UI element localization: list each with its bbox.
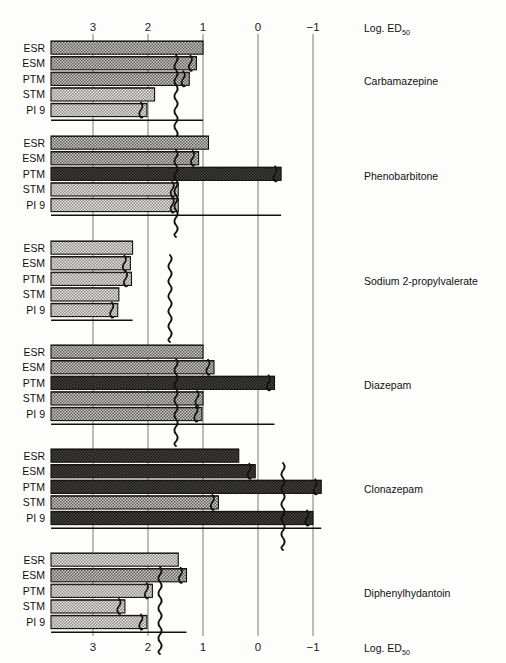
row-label-esr: ESR xyxy=(23,242,45,254)
bottom-tick-1: 2 xyxy=(145,641,151,653)
drug-label-diazepam: Diazepam xyxy=(364,379,412,391)
bar xyxy=(51,511,313,524)
row-label-esm: ESM xyxy=(22,57,45,69)
row-label-pi9: PI 9 xyxy=(26,512,45,524)
row-label-ptm: PTM xyxy=(23,481,45,493)
bar xyxy=(51,72,189,85)
bar xyxy=(51,272,132,285)
row-label-stm: STM xyxy=(23,600,45,612)
bottom-tick-0: 3 xyxy=(90,641,96,653)
bar xyxy=(51,103,147,116)
top-tick-3: 0 xyxy=(255,21,261,33)
bar xyxy=(51,136,209,149)
row-label-stm: STM xyxy=(23,496,45,508)
row-label-ptm: PTM xyxy=(23,168,45,180)
bar xyxy=(51,480,321,493)
bar xyxy=(51,288,119,301)
bar xyxy=(51,584,152,597)
row-label-pi9: PI 9 xyxy=(26,408,45,420)
drug-label-sodium-2-propylvalerate: Sodium 2-propylvalerate xyxy=(364,275,478,287)
bottom-tick-2: 1 xyxy=(200,641,206,653)
row-label-esm: ESM xyxy=(22,152,45,164)
bar xyxy=(51,198,178,211)
bar xyxy=(51,257,130,270)
top-tick-2: 1 xyxy=(200,21,206,33)
bar xyxy=(51,303,118,316)
row-label-pi9: PI 9 xyxy=(26,104,45,116)
row-label-ptm: PTM xyxy=(23,585,45,597)
row-label-pi9: PI 9 xyxy=(26,304,45,316)
row-label-pi9: PI 9 xyxy=(26,616,45,628)
bar xyxy=(51,167,281,180)
bar xyxy=(51,183,178,196)
chart-figure: 3210−1 3210−1 ESRESMPTMSTMPI 9ESRESMPTMS… xyxy=(0,0,506,663)
bar xyxy=(51,600,125,613)
top-tick-0: 3 xyxy=(90,21,96,33)
bar xyxy=(51,376,275,389)
row-label-stm: STM xyxy=(23,288,45,300)
row-label-esr: ESR xyxy=(23,450,45,462)
row-label-stm: STM xyxy=(23,88,45,100)
bar xyxy=(51,449,239,462)
row-label-esm: ESM xyxy=(22,569,45,581)
bar-chart-svg: 3210−1 3210−1 ESRESMPTMSTMPI 9ESRESMPTMS… xyxy=(0,0,506,663)
row-label-ptm: PTM xyxy=(23,273,45,285)
top-tick-1: 2 xyxy=(145,21,151,33)
bar xyxy=(51,392,203,405)
row-label-esr: ESR xyxy=(23,137,45,149)
bar xyxy=(51,496,218,509)
drug-label-carbamazepine: Carbamazepine xyxy=(364,75,438,87)
row-label-esm: ESM xyxy=(22,465,45,477)
bar xyxy=(51,241,133,254)
row-label-stm: STM xyxy=(23,183,45,195)
drug-label-phenobarbitone: Phenobarbitone xyxy=(364,170,438,182)
bar xyxy=(51,41,203,54)
bottom-tick-4: −1 xyxy=(306,641,319,653)
row-label-ptm: PTM xyxy=(23,377,45,389)
bar xyxy=(51,361,214,374)
bottom-tick-3: 0 xyxy=(255,641,261,653)
bar xyxy=(51,569,187,582)
row-label-esr: ESR xyxy=(23,42,45,54)
bar xyxy=(51,615,147,628)
bar xyxy=(51,407,202,420)
bar xyxy=(51,465,255,478)
row-label-esm: ESM xyxy=(22,361,45,373)
drug-label-clonazepam: Clonazepam xyxy=(364,483,423,495)
row-label-stm: STM xyxy=(23,392,45,404)
bar xyxy=(51,345,203,358)
row-label-esm: ESM xyxy=(22,257,45,269)
row-label-ptm: PTM xyxy=(23,73,45,85)
row-label-esr: ESR xyxy=(23,554,45,566)
row-label-esr: ESR xyxy=(23,346,45,358)
row-label-pi9: PI 9 xyxy=(26,199,45,211)
bar xyxy=(51,553,178,566)
top-tick-4: −1 xyxy=(306,21,319,33)
drug-label-diphenylhydantoin: Diphenylhydantoin xyxy=(364,587,451,599)
bar xyxy=(51,88,155,101)
